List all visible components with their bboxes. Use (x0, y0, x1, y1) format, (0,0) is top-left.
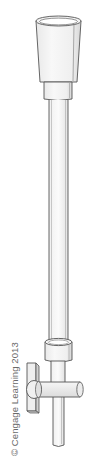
graduated-tube (49, 100, 68, 343)
figure: © Cengage Learning 2013 (0, 0, 102, 461)
delivery-tip (53, 396, 64, 447)
stopcock-handle (27, 363, 42, 413)
valve-stem (51, 361, 65, 383)
copyright-caption: © Cengage Learning 2013 (9, 342, 20, 456)
funnel-top (36, 16, 81, 82)
stopcock-valve (38, 382, 83, 397)
stopcock-collar (45, 338, 72, 362)
upper-collar (44, 82, 72, 101)
